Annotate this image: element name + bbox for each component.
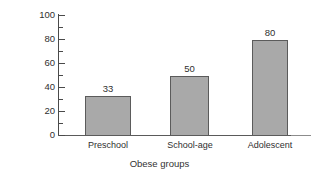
- bar-chart-figure: Percent who become obese adults 0 20 40 …: [0, 0, 319, 176]
- bar-value-school-age: 50: [184, 63, 195, 74]
- y-tick-label-80: 80: [44, 33, 55, 44]
- bar-adolescent[interactable]: 80: [252, 40, 288, 136]
- bar-preschool[interactable]: 33: [85, 96, 131, 136]
- y-tick-label-0: 0: [50, 129, 55, 140]
- x-tick-label-adolescent: Adolescent: [248, 140, 293, 151]
- y-tick-label-100: 100: [39, 9, 55, 20]
- plot-area: 0 20 40 60 80 100 33 50 80: [58, 14, 311, 137]
- bar-value-adolescent: 80: [265, 27, 276, 38]
- y-tick-100: 100: [59, 15, 65, 16]
- bar-value-preschool: 33: [103, 83, 114, 94]
- x-tick-label-school-age: School-age: [167, 140, 213, 151]
- bar-school-age[interactable]: 50: [170, 76, 209, 136]
- y-tick-minor-50: [59, 75, 63, 76]
- y-tick-40: 40: [59, 87, 65, 88]
- y-tick-80: 80: [59, 39, 65, 40]
- y-tick-minor-90: [59, 27, 63, 28]
- y-tick-60: 60: [59, 63, 65, 64]
- y-tick-label-20: 20: [44, 105, 55, 116]
- y-tick-label-40: 40: [44, 81, 55, 92]
- y-tick-minor-30: [59, 99, 63, 100]
- x-tick-label-preschool: Preschool: [88, 140, 128, 151]
- y-tick-minor-70: [59, 51, 63, 52]
- y-tick-label-60: 60: [44, 57, 55, 68]
- y-tick-20: 20: [59, 111, 65, 112]
- x-axis-title: Obese groups: [0, 158, 319, 169]
- y-tick-minor-10: [59, 123, 63, 124]
- y-tick-0: 0: [59, 135, 65, 136]
